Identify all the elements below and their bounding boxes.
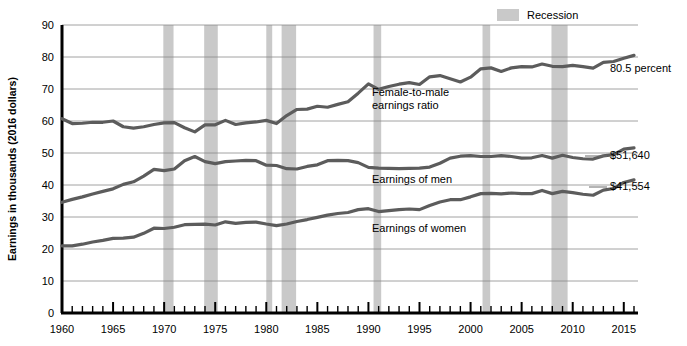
x-axis-tick-label: 1995 <box>407 323 431 335</box>
recession-band <box>266 25 272 313</box>
y-axis-tick-label: 70 <box>42 83 54 95</box>
x-axis-tick-label: 1960 <box>50 323 74 335</box>
x-axis-tick-label: 1990 <box>356 323 380 335</box>
women-inline-label: Earnings of women <box>372 222 466 234</box>
x-axis-tick-label: 1965 <box>101 323 125 335</box>
recession-band <box>204 25 218 313</box>
y-axis-tick-label: 80 <box>42 51 54 63</box>
y-axis-tick-label: 20 <box>42 243 54 255</box>
earnings-line-chart: 0102030405060708090 19601965197019751980… <box>0 0 687 346</box>
x-axis-tick-label: 2010 <box>560 323 584 335</box>
y-axis-tick-label: 50 <box>42 147 54 159</box>
x-axis-tick-label: 2015 <box>612 323 636 335</box>
men-end-label: $51,640 <box>610 149 650 161</box>
ratio-inline-label-line2: earnings ratio <box>372 99 439 111</box>
legend-recession-swatch <box>497 9 519 21</box>
y-axis-title: Earnings in thousands (2016 dollars) <box>6 77 18 261</box>
x-axis-tick-label: 1975 <box>203 323 227 335</box>
y-axis-tick-label: 40 <box>42 179 54 191</box>
chart-figure: 0102030405060708090 19601965197019751980… <box>0 0 687 346</box>
y-axis-tick-label: 10 <box>42 275 54 287</box>
x-axis-tick-label: 1985 <box>305 323 329 335</box>
x-axis-tick-label: 1980 <box>254 323 278 335</box>
legend-recession-label: Recession <box>527 9 578 21</box>
ratio-inline-label-line1: Female-to-male <box>372 86 449 98</box>
y-axis-tick-label: 60 <box>42 115 54 127</box>
recession-band <box>551 25 567 313</box>
y-axis-tick-label: 90 <box>42 19 54 31</box>
legend: Recession <box>497 9 578 21</box>
ratio-end-label: 80.5 percent <box>610 62 671 74</box>
y-axis-tick-label: 0 <box>48 307 54 319</box>
chart-background <box>0 0 687 346</box>
x-axis-tick-label: 2000 <box>458 323 482 335</box>
x-axis-tick-label: 1970 <box>152 323 176 335</box>
x-axis-tick-label: 2005 <box>509 323 533 335</box>
y-axis-tick-label: 30 <box>42 211 54 223</box>
men-inline-label: Earnings of men <box>372 173 452 185</box>
women-end-label: $41,554 <box>610 180 650 192</box>
